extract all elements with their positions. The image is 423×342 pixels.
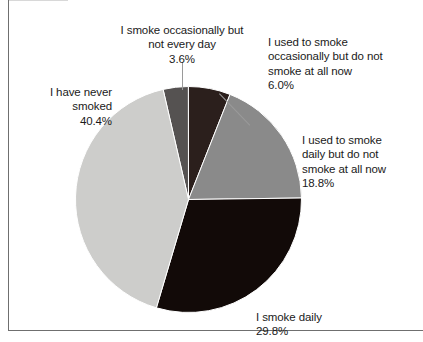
frame-top-edge <box>8 0 68 1</box>
slice-label-text: I smoke occasionally but not every day <box>121 24 244 51</box>
slice-label-text: I have never smoked <box>50 86 112 113</box>
chart-frame: I smoke occasionally but not every day 3… <box>0 0 423 342</box>
slice-label-used-occasionally: I used to smoke occasionally but do not … <box>268 20 420 93</box>
slice-label-percent: 40.4% <box>80 115 112 127</box>
frame-left-border <box>8 0 9 331</box>
slice-label-percent: 29.8% <box>256 325 288 337</box>
slice-label-used-daily: I used to smoke daily but do not smoke a… <box>302 118 422 191</box>
slice-label-text: I smoke daily <box>256 311 322 323</box>
leader-line-occasional-not-daily <box>182 62 183 90</box>
slice-label-text: I used to smoke daily but do not smoke a… <box>302 134 386 175</box>
slice-label-occasional-not-daily: I smoke occasionally but not every day 3… <box>102 8 262 66</box>
slice-label-never-smoked: I have never smoked 40.4% <box>6 70 112 128</box>
slice-label-text: I used to smoke occasionally but do not … <box>268 36 383 77</box>
slice-label-smoke-daily: I smoke daily 29.8% <box>256 295 396 339</box>
slice-label-percent: 3.6% <box>169 53 195 65</box>
slice-label-percent: 6.0% <box>268 79 294 91</box>
slice-label-percent: 18.8% <box>302 177 334 189</box>
